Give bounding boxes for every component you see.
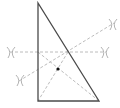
perpendicular-bisector-hypotenuse-line [19,23,114,81]
arc-right-horizontal-icon [101,47,109,58]
median-to-hypotenuse-line [38,52,68,101]
construction-lines [10,23,114,101]
median-to-vertical-leg-line [38,52,99,101]
arc-left-horizontal-icon [7,47,15,58]
centroid-point [56,67,59,70]
arc-upper-right-diagonal-icon [109,19,117,30]
arc-marks [7,19,117,86]
geometry-diagram [0,0,120,108]
